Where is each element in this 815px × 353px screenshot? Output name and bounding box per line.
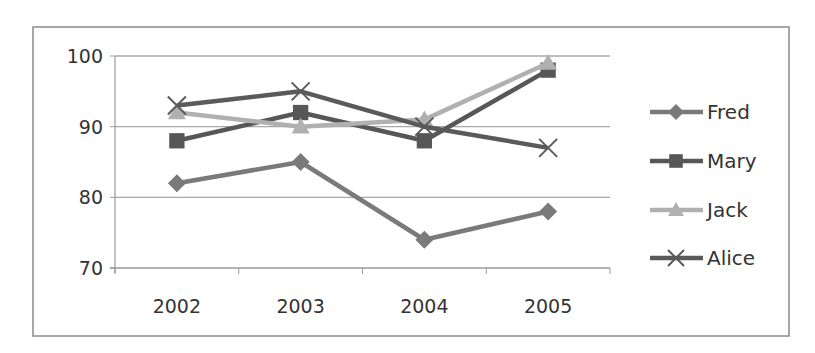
- x-tick-label: 2002: [153, 295, 201, 317]
- square-marker-icon: [669, 154, 683, 168]
- legend-label: Alice: [707, 246, 755, 270]
- y-tick-label: 70: [79, 257, 103, 279]
- chart-canvas: 708090100 2002200320042005 FredMaryJackA…: [0, 0, 815, 353]
- square-marker-icon: [169, 133, 184, 148]
- x-tick-label: 2003: [276, 295, 324, 317]
- y-tick-label: 100: [67, 45, 103, 67]
- y-tick-label: 80: [79, 186, 103, 208]
- x-tick-label: 2005: [524, 295, 572, 317]
- y-tick-label: 90: [79, 116, 103, 138]
- legend-label: Jack: [705, 198, 748, 222]
- legend-label: Fred: [707, 100, 750, 124]
- legend-label: Mary: [707, 149, 757, 173]
- square-marker-icon: [417, 133, 432, 148]
- line-chart: 708090100 2002200320042005 FredMaryJackA…: [0, 0, 815, 353]
- chart-frame: [33, 27, 789, 336]
- x-tick-label: 2004: [400, 295, 448, 317]
